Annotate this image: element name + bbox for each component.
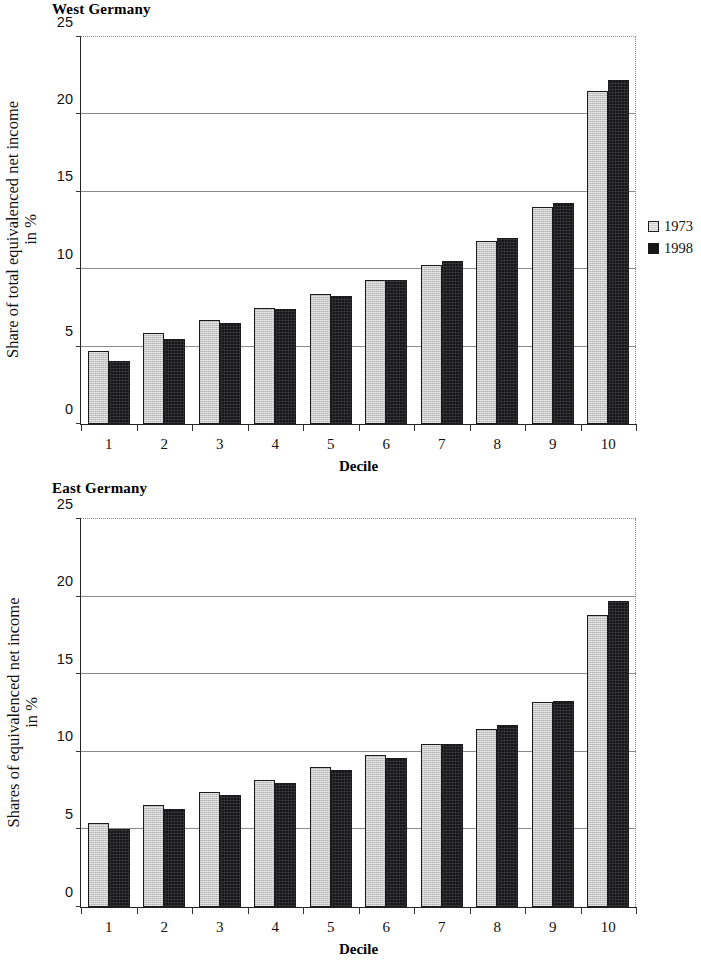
x-tick-label: 4 <box>272 436 280 453</box>
legend-label: 1973 <box>664 218 693 235</box>
legend-label: 1998 <box>664 240 693 257</box>
x-tick-mark <box>81 424 82 431</box>
bar-group <box>359 37 415 424</box>
bar-group <box>414 519 470 907</box>
bar-1973-decile-7 <box>421 265 442 424</box>
y-axis-title-west: Share of total equivalenced net income i… <box>0 30 46 428</box>
y-tick-label: 20 <box>57 573 73 589</box>
bar-1993-decile-10 <box>587 615 608 907</box>
bar-group <box>81 37 137 424</box>
y-axis-title-line1: Shares of equivalenced net income <box>4 597 23 827</box>
bar-1973-decile-5 <box>310 294 331 424</box>
bar-group <box>248 37 304 424</box>
y-tick-label: 25 <box>57 14 73 30</box>
bar-1998-decile-2 <box>164 809 185 907</box>
x-tick-label: 1 <box>105 436 113 453</box>
x-tick-mark <box>636 907 637 914</box>
bar-1998-decile-10 <box>608 80 629 424</box>
y-tick-label: 15 <box>57 651 73 667</box>
x-tick-label: 8 <box>494 436 502 453</box>
y-axis-title-east: Shares of equivalenced net income in % <box>0 513 46 911</box>
legend-swatch-icon <box>648 221 659 232</box>
y-tick-label: 10 <box>57 728 73 744</box>
x-tick-label: 1 <box>105 919 113 936</box>
x-tick-mark <box>303 424 304 431</box>
x-axis-title-west: Decile <box>81 458 636 475</box>
x-tick-label: 3 <box>216 436 224 453</box>
bar-1993-decile-1 <box>88 823 109 907</box>
x-tick-mark <box>581 907 582 914</box>
x-tick-label: 9 <box>549 436 557 453</box>
bar-1993-decile-2 <box>143 805 164 907</box>
x-tick-mark <box>137 907 138 914</box>
x-tick-mark <box>414 424 415 431</box>
x-axis-title-east: Decile <box>81 941 636 958</box>
bar-group <box>470 519 526 907</box>
bar-1998-decile-1 <box>109 361 130 424</box>
plot-area-east: 0510152025 12345678910 Decile <box>80 519 636 908</box>
bar-1998-decile-8 <box>497 725 518 907</box>
bar-1973-decile-10 <box>587 91 608 424</box>
bar-1993-decile-3 <box>199 792 220 907</box>
bar-1998-decile-6 <box>386 280 407 424</box>
x-tick-label: 10 <box>601 919 616 936</box>
bar-1998-decile-4 <box>275 309 296 424</box>
bar-1993-decile-5 <box>310 767 331 907</box>
x-tick-mark <box>636 424 637 431</box>
x-tick-label: 7 <box>438 436 446 453</box>
bar-group <box>581 519 637 907</box>
bar-group <box>581 37 637 424</box>
bar-1973-decile-2 <box>143 333 164 424</box>
bar-group <box>137 519 193 907</box>
x-tick-mark <box>359 907 360 914</box>
bar-group <box>359 519 415 907</box>
y-tick-label: 0 <box>65 401 73 417</box>
x-tick-mark <box>470 907 471 914</box>
bar-1998-decile-6 <box>386 758 407 907</box>
chart-title-east: East Germany <box>52 480 147 497</box>
bar-group <box>525 519 581 907</box>
plot-area-west: 0510152025 12345678910 Decile <box>80 37 636 425</box>
x-axis-ticks-east: 12345678910 <box>81 907 636 941</box>
y-tick-label: 25 <box>57 496 73 512</box>
x-tick-label: 9 <box>549 919 557 936</box>
bar-1998-decile-9 <box>553 701 574 907</box>
bar-1993-decile-8 <box>476 729 497 907</box>
bar-group <box>303 519 359 907</box>
bar-groups-west <box>81 37 636 424</box>
bar-1973-decile-1 <box>88 351 109 424</box>
x-tick-mark <box>192 907 193 914</box>
x-tick-mark <box>81 907 82 914</box>
x-tick-label: 6 <box>383 436 391 453</box>
bar-1993-decile-7 <box>421 744 442 907</box>
y-tick-label: 0 <box>65 884 73 900</box>
x-tick-mark <box>525 424 526 431</box>
y-tick-label: 5 <box>65 806 73 822</box>
legend-item-1973: 1973 <box>648 218 693 235</box>
bar-1973-decile-4 <box>254 308 275 424</box>
bar-1973-decile-6 <box>365 280 386 424</box>
bar-1998-decile-9 <box>553 203 574 424</box>
bar-group <box>414 37 470 424</box>
bar-1993-decile-9 <box>532 702 553 907</box>
bar-1998-decile-3 <box>220 795 241 907</box>
x-tick-mark <box>248 424 249 431</box>
bar-group <box>81 519 137 907</box>
chart-west-germany: West Germany Share of total equivalenced… <box>0 0 701 480</box>
x-tick-mark <box>470 424 471 431</box>
bar-1998-decile-5 <box>331 770 352 907</box>
x-tick-mark <box>192 424 193 431</box>
bar-1998-decile-7 <box>442 744 463 907</box>
bar-group <box>525 37 581 424</box>
bar-1998-decile-2 <box>164 339 185 424</box>
bar-1998-decile-5 <box>331 296 352 424</box>
bar-group <box>248 519 304 907</box>
bar-group <box>470 37 526 424</box>
bar-1993-decile-6 <box>365 755 386 907</box>
bar-1998-decile-4 <box>275 783 296 907</box>
bar-1973-decile-3 <box>199 320 220 424</box>
y-tick-label: 20 <box>57 91 73 107</box>
bar-1998-decile-1 <box>109 829 130 907</box>
x-tick-label: 2 <box>161 436 169 453</box>
x-tick-label: 7 <box>438 919 446 936</box>
